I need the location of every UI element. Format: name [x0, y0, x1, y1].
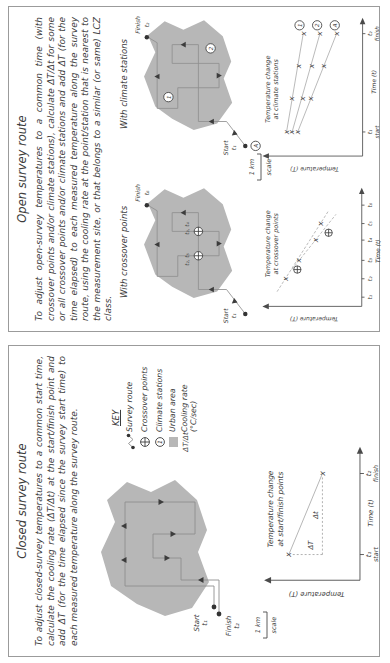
- closed-graph-title-2: at start/finish points: [276, 472, 285, 547]
- key-item-climate: 1 Climate stations: [154, 346, 166, 452]
- svg-text:x: x: [299, 31, 308, 37]
- open-survey-panel: Open survey route To adjust open-survey …: [8, 6, 380, 332]
- data-marker-x: x: [318, 471, 327, 477]
- finish-time-label: t₂: [233, 623, 241, 629]
- crossover-2-symbol: [325, 229, 332, 236]
- start-label: Start: [193, 614, 201, 631]
- climate-graph-title-2: at climate stations: [272, 59, 280, 120]
- finish-label: Finish: [134, 16, 141, 34]
- tick-t4: t₄: [366, 237, 373, 242]
- svg-text:x: x: [287, 96, 296, 102]
- station-2-line-label: 2: [313, 21, 322, 30]
- key-label-survey-route: Survey route: [126, 382, 135, 432]
- key-label-cooling-rate: Cooling rate (°C/sec): [181, 384, 198, 432]
- finish-label: Finish: [225, 616, 233, 636]
- crossover-points-graph: Temperature change at crossover points T…: [255, 183, 382, 323]
- key-label-climate: Climate stations: [156, 369, 165, 432]
- urban-area-swatch: [169, 432, 178, 452]
- climate-stations-graph: Temperature change at climate stations T…: [255, 11, 383, 175]
- closed-graph-ylabel: Temperature (T): [288, 590, 344, 598]
- urban-area-shape: [101, 480, 209, 616]
- svg-text:x: x: [294, 63, 303, 69]
- closed-start-finish-graph: Temperature change at start/finish point…: [255, 432, 378, 600]
- climate-station-1: 1: [164, 92, 173, 101]
- cooling-rate-symbol: ΔT/Δt: [181, 432, 190, 452]
- crossover-graph-xlabel: Time (t): [374, 239, 381, 263]
- key-item-urban: Urban area: [169, 346, 178, 452]
- tick-t2: t₂: [366, 276, 373, 281]
- svg-text:x: x: [306, 96, 315, 102]
- tick-t2: t₂: [366, 31, 373, 36]
- key-item-survey-route: Survey route: [125, 346, 136, 452]
- key-item-crossover: Crossover points: [139, 346, 151, 452]
- start-time-label: t₁: [230, 313, 237, 318]
- crossover-graph-title-2: at crossover points: [272, 212, 280, 274]
- key-legend: KEY Survey route Crossover points: [111, 346, 201, 452]
- tick-t3: t₃: [366, 257, 373, 262]
- climate-stations-map: 1 2 A Start t₁ Finish t₂: [129, 9, 265, 159]
- key-label-urban: Urban area: [169, 388, 178, 432]
- crossover-1-symbol: [294, 266, 301, 273]
- tick-t1: t₁: [366, 294, 373, 299]
- start-time-label: t₁: [230, 145, 237, 150]
- crossover-points-map: t₂, t₅ t₃, t₄ Start t₁ Finish t₆: [129, 177, 265, 327]
- crossover-1-times: t₂, t₅: [184, 253, 190, 266]
- finish-point-dot: [145, 203, 150, 208]
- svg-text:1: 1: [297, 24, 303, 28]
- crossover-2-times: t₃, t₄: [184, 222, 190, 235]
- data-marker-x: x: [294, 258, 303, 264]
- svg-text:x: x: [307, 63, 316, 69]
- delta-t-annotation: Δt: [312, 511, 320, 520]
- data-marker-x: x: [281, 276, 290, 282]
- scale-value: 1 km: [254, 617, 262, 633]
- svg-text:1: 1: [166, 95, 172, 99]
- finish-time-label: t₂: [143, 22, 150, 27]
- svg-text:x: x: [315, 31, 324, 37]
- key-header: KEY: [111, 346, 121, 426]
- svg-text:A: A: [332, 23, 338, 28]
- closed-graph-title-1: Temperature change: [266, 470, 275, 547]
- delta-T-annotation: ΔT: [307, 540, 315, 551]
- survey-route-icon: [125, 432, 136, 452]
- tick-t2-sub: finish: [374, 26, 380, 42]
- svg-text:2: 2: [208, 46, 214, 50]
- crossover-section-header: With crossover points: [119, 177, 129, 327]
- station-1-line-label: 1: [295, 21, 304, 30]
- svg-text:2: 2: [314, 23, 320, 27]
- finish-point-dot: [145, 35, 150, 40]
- start-point-dot: [212, 605, 217, 610]
- key-label-crossover: Crossover points: [141, 367, 150, 432]
- crossover-graph-title-1: Temperature change: [264, 210, 272, 277]
- tick-t1-sub: start: [372, 547, 380, 562]
- scale-bar: 1 km scale: [254, 612, 278, 638]
- closed-panel-title: Closed survey route: [15, 346, 29, 656]
- tick-t1: t₁: [366, 129, 373, 134]
- open-panel-title: Open survey route: [15, 7, 29, 331]
- svg-text:x: x: [319, 63, 328, 69]
- start-point-dot: [243, 144, 248, 149]
- finish-time-label: t₆: [143, 190, 150, 195]
- data-marker-x: x: [311, 237, 320, 243]
- svg-text:x: x: [332, 31, 341, 37]
- start-label: Start: [222, 140, 229, 155]
- crossover-graph-ylabel: Temperature (T): [290, 315, 338, 323]
- closed-panel-paragraph: To adjust closed-survey temperatures to …: [34, 356, 80, 646]
- finish-point-dot: [217, 612, 222, 617]
- tick-t6: t₆: [366, 202, 373, 207]
- rotated-figure-stage: Closed survey route To adjust closed-sur…: [0, 0, 390, 663]
- crossover-point-1: [194, 252, 202, 260]
- svg-text:x: x: [293, 129, 302, 135]
- start-time-label: t₁: [201, 620, 209, 626]
- scale-word: scale: [270, 617, 278, 634]
- x-tick-marks: [362, 205, 365, 297]
- closed-graph-xlabel: Time (t): [367, 499, 375, 526]
- crossover-point-icon: [139, 432, 151, 452]
- climate-graph-ylabel: Temperature (T): [290, 165, 339, 173]
- station-A-line-label: A: [330, 21, 339, 30]
- open-panel-paragraph: To adjust open-survey temperatures to a …: [34, 17, 115, 321]
- climate-graph-xlabel: Time (t): [370, 70, 377, 94]
- climate-station-2: 2: [206, 44, 215, 53]
- climate-graph-title-1: Temperature change: [264, 56, 272, 123]
- tick-t1-sub: start: [374, 125, 380, 139]
- svg-text:1: 1: [156, 440, 163, 444]
